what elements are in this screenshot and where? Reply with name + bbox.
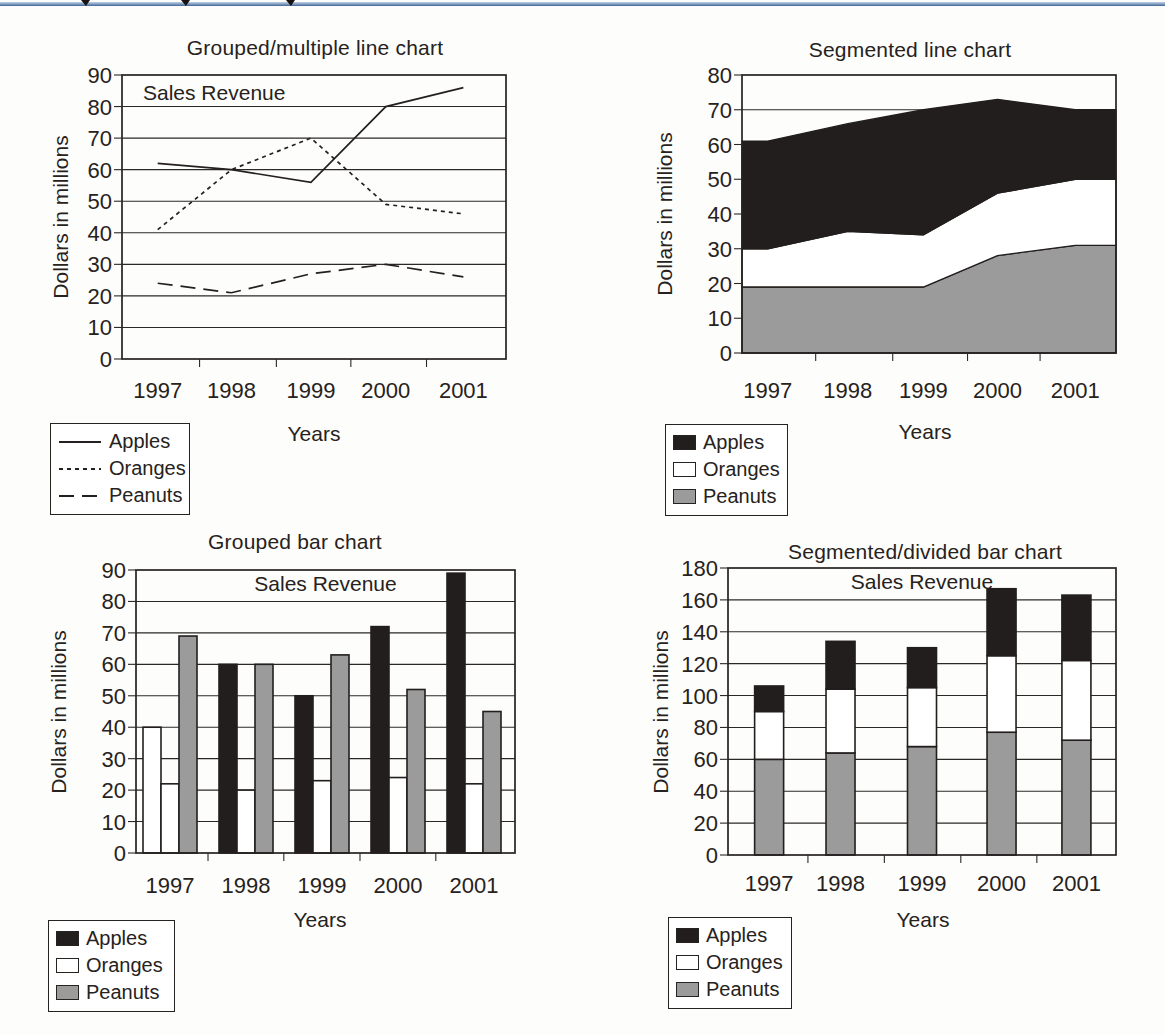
segment-oranges-1997: [755, 712, 784, 760]
chart-segmented-line: Segmented line chart Dollars in millions…: [660, 58, 1130, 518]
x-axis-title: Years: [214, 422, 414, 446]
solid-line-swatch: [58, 435, 102, 449]
x-tick-label: 1999: [899, 378, 948, 403]
stacked-bar-plot: 0204060801001201401601801997199819992000…: [655, 550, 1130, 908]
x-tick-label: 1999: [298, 873, 347, 898]
x-axis-title: Years: [220, 908, 420, 932]
chart-segmented-bar: Segmented/divided bar chart Dollars in m…: [655, 550, 1130, 1020]
x-tick-label: 1998: [207, 378, 256, 403]
x-tick-label: 1997: [745, 871, 794, 896]
white-swatch: [676, 955, 699, 970]
y-tick-label: 60: [708, 133, 732, 158]
y-tick-label: 20: [694, 811, 718, 836]
legend-label: Apples: [706, 924, 767, 947]
inner-annotation: Sales Revenue: [143, 81, 285, 104]
legend-item-oranges: Oranges: [676, 950, 788, 975]
y-tick-label: 90: [88, 63, 112, 88]
y-tick-label: 60: [694, 747, 718, 772]
top-rule: [0, 2, 1165, 6]
y-tick-label: 0: [706, 843, 718, 868]
bar-plot: 010203040506070809019971998199920002001S…: [60, 552, 530, 907]
legend-label: Peanuts: [86, 981, 159, 1004]
legend-label: Peanuts: [703, 485, 776, 508]
y-tick-label: 180: [681, 556, 718, 581]
y-tick-label: 40: [102, 715, 126, 740]
y-tick-label: 40: [694, 779, 718, 804]
x-tick-label: 1997: [743, 378, 792, 403]
x-tick-label: 1997: [146, 873, 195, 898]
chart-grouped-line: Grouped/multiple line chart Dollars in m…: [55, 58, 525, 518]
legend-item-apples: Apples: [58, 429, 186, 454]
y-tick-label: 10: [88, 315, 112, 340]
segment-oranges-1998: [826, 689, 855, 753]
x-tick-label: 1999: [286, 378, 335, 403]
segment-peanuts-2001: [1062, 740, 1091, 855]
y-tick-label: 10: [708, 306, 732, 331]
legend-item-apples: Apples: [673, 430, 784, 455]
segment-apples-1997: [755, 686, 784, 712]
gray-swatch: [676, 982, 699, 997]
y-tick-label: 60: [88, 158, 112, 183]
y-tick-label: 50: [102, 684, 126, 709]
y-tick-label: 80: [694, 715, 718, 740]
gray-swatch: [673, 489, 696, 504]
y-tick-label: 90: [102, 558, 126, 583]
y-tick-label: 100: [681, 684, 718, 709]
white-swatch: [673, 462, 696, 477]
black-swatch: [673, 435, 696, 450]
bar-apples-1997: [143, 727, 161, 853]
chart-title: Grouped bar chart: [95, 530, 495, 554]
legend-label: Oranges: [109, 457, 186, 480]
chart-grouped-bar: Grouped bar chart Dollars in millions 01…: [60, 552, 530, 1022]
chart-title: Grouped/multiple line chart: [115, 36, 515, 60]
legend: Apples Oranges Peanuts: [665, 424, 788, 516]
y-tick-label: 30: [88, 252, 112, 277]
y-tick-label: 30: [708, 237, 732, 262]
legend-label: Apples: [109, 430, 170, 453]
segment-peanuts-1997: [755, 759, 784, 855]
x-tick-label: 2000: [361, 378, 410, 403]
x-axis-title: Years: [823, 908, 1023, 932]
x-tick-label: 1998: [222, 873, 271, 898]
dashed-line-swatch: [58, 489, 102, 503]
y-tick-label: 20: [102, 778, 126, 803]
segment-oranges-2001: [1062, 660, 1091, 740]
x-tick-label: 1997: [133, 378, 182, 403]
legend-item-peanuts: Peanuts: [673, 484, 784, 509]
line-series-peanuts: [158, 264, 464, 292]
y-tick-label: 50: [88, 189, 112, 214]
segment-peanuts-2000: [987, 732, 1016, 855]
x-tick-label: 1999: [898, 871, 947, 896]
y-tick-label: 70: [88, 126, 112, 151]
segment-apples-1998: [826, 641, 855, 689]
legend-label: Oranges: [703, 458, 780, 481]
legend-label: Apples: [703, 431, 764, 454]
x-axis-title: Years: [825, 420, 1025, 444]
y-tick-label: 50: [708, 167, 732, 192]
bar-peanuts-1999: [331, 655, 349, 853]
legend-item-oranges: Oranges: [673, 457, 784, 482]
bar-peanuts-2000: [407, 689, 425, 853]
segment-apples-1999: [908, 648, 937, 688]
y-tick-label: 20: [708, 272, 732, 297]
segment-apples-2001: [1062, 595, 1091, 660]
area-plot: 0102030405060708019971998199920002001: [660, 58, 1130, 410]
legend-item-peanuts: Peanuts: [58, 483, 186, 508]
legend: Apples Oranges Peanuts: [668, 917, 792, 1009]
inner-annotation: Sales Revenue: [851, 570, 993, 593]
x-tick-label: 2000: [374, 873, 423, 898]
y-tick-label: 80: [88, 95, 112, 120]
y-tick-label: 0: [720, 341, 732, 366]
bar-apples-2001: [447, 573, 465, 853]
legend: Apples Oranges Peanuts: [50, 423, 190, 515]
x-tick-label: 1998: [823, 378, 872, 403]
bar-oranges-1998: [237, 790, 255, 853]
legend-label: Apples: [86, 927, 147, 950]
y-tick-label: 60: [102, 652, 126, 677]
y-tick-label: 30: [102, 747, 126, 772]
bar-oranges-2000: [389, 778, 407, 853]
bar-oranges-1997: [161, 784, 179, 853]
y-tick-label: 120: [681, 652, 718, 677]
black-swatch: [56, 931, 79, 946]
segment-peanuts-1999: [908, 747, 937, 855]
